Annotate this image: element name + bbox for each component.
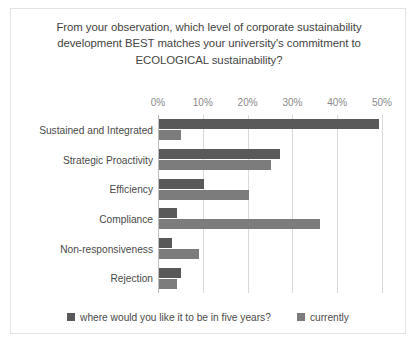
legend-entry[interactable]: where would you like it to be in five ye… [67,312,271,323]
category-label: Non-responsiveness [17,243,153,254]
plot-area [158,115,382,293]
legend-swatch-icon [297,313,305,321]
bar [159,149,280,159]
bar [159,279,177,289]
x-tick-label: 30% [282,97,302,108]
gridline [382,115,383,293]
category-label: Strategic Proactivity [17,154,153,165]
y-axis-line [158,115,159,293]
bar [159,268,181,278]
legend-label: currently [310,312,349,323]
bar [159,160,271,170]
gridline [337,115,338,293]
gridline [203,115,204,293]
chart-title: From your observation, which level of co… [37,19,381,68]
bar [159,238,172,248]
gridline [292,115,293,293]
x-tick-label: 50% [372,97,392,108]
legend-swatch-icon [67,313,75,321]
category-label: Efficiency [17,184,153,195]
bar [159,190,249,200]
x-tick-label: 0% [151,97,165,108]
bar [159,219,320,229]
chart-card: From your observation, which level of co… [10,8,406,334]
bar [159,130,181,140]
gridline [248,115,249,293]
chart-legend: where would you like it to be in five ye… [11,305,405,329]
bar [159,208,177,218]
x-tick-label: 40% [327,97,347,108]
bar [159,179,204,189]
category-label: Sustained and Integrated [17,124,153,135]
legend-entry[interactable]: currently [297,312,349,323]
x-axis-tick-labels: 0%10%20%30%40%50% [158,97,382,113]
category-label: Compliance [17,213,153,224]
legend-label: where would you like it to be in five ye… [80,312,271,323]
x-tick-label: 10% [193,97,213,108]
bar [159,249,199,259]
y-axis-category-labels: Sustained and IntegratedStrategic Proact… [17,115,153,293]
bar [159,119,379,129]
x-tick-label: 20% [238,97,258,108]
category-label: Rejection [17,273,153,284]
